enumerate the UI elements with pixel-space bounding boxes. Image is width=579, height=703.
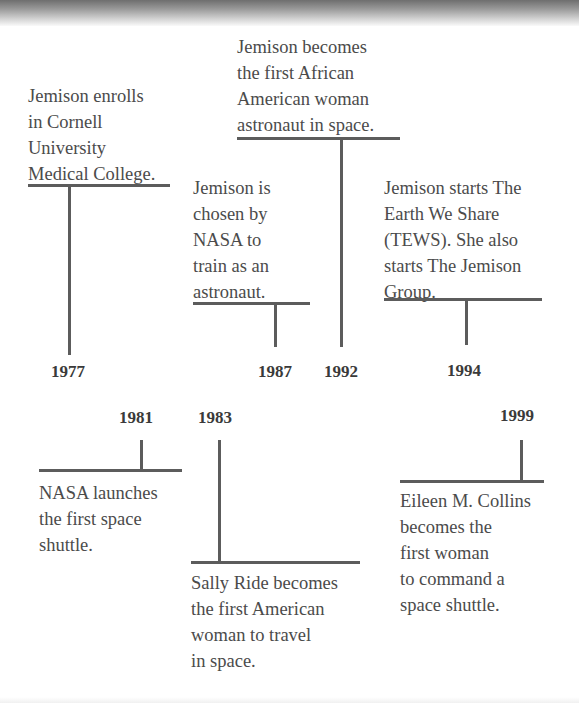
year-label-1987: 1987 bbox=[258, 362, 292, 382]
event-1977-description: Jemison enrolls in Cornell University Me… bbox=[28, 83, 155, 187]
event-1987-bar bbox=[193, 302, 310, 305]
year-label-1992: 1992 bbox=[324, 362, 358, 382]
event-1994-description: Jemison starts The Earth We Share (TEWS)… bbox=[384, 175, 521, 305]
year-label-1994: 1994 bbox=[447, 361, 481, 381]
event-1992-connector bbox=[340, 137, 343, 347]
event-1983-bar bbox=[191, 561, 360, 564]
event-1987-description: Jemison is chosen by NASA to train as an… bbox=[193, 175, 271, 305]
event-1992-description: Jemison becomes the first African Americ… bbox=[237, 34, 374, 138]
year-label-1977: 1977 bbox=[51, 362, 85, 382]
year-label-1981: 1981 bbox=[119, 408, 153, 428]
event-1999-description: Eileen M. Collins becomes the first woma… bbox=[400, 488, 531, 618]
event-1987-connector bbox=[274, 302, 277, 347]
event-1983-connector bbox=[218, 440, 221, 562]
event-1992-bar bbox=[237, 137, 400, 140]
event-1983-description: Sally Ride becomes the first American wo… bbox=[191, 570, 338, 674]
event-1999-bar bbox=[400, 480, 544, 483]
event-1994-bar bbox=[384, 298, 542, 301]
year-label-1983: 1983 bbox=[198, 408, 232, 428]
event-1977-connector bbox=[68, 184, 71, 355]
event-1981-description: NASA launches the first space shuttle. bbox=[39, 480, 158, 558]
event-1981-connector bbox=[140, 440, 143, 470]
event-1981-bar bbox=[39, 469, 182, 472]
event-1999-connector bbox=[520, 440, 523, 481]
page-bottom-edge bbox=[0, 697, 579, 703]
event-1994-connector bbox=[465, 298, 468, 345]
page-top-shadow bbox=[0, 0, 579, 26]
event-1977-bar bbox=[28, 184, 170, 187]
year-label-1999: 1999 bbox=[500, 406, 534, 426]
